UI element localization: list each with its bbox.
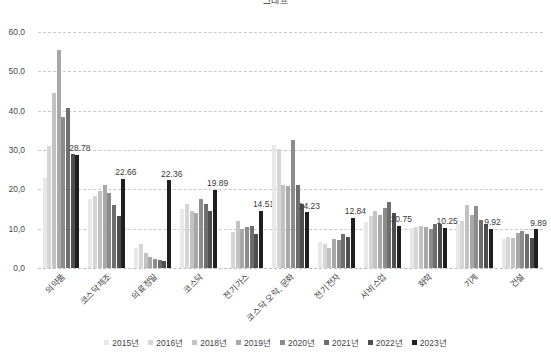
bar <box>180 209 184 268</box>
legend-swatch-icon <box>192 340 197 345</box>
legend-item[interactable]: 2020년 <box>280 336 315 348</box>
bar <box>460 221 464 268</box>
bar-group: 22.36 <box>130 32 176 268</box>
bar: 9.89 <box>534 229 538 268</box>
x-axis-label: 의료정밀 <box>128 270 159 301</box>
x-axis-label: 전기가스 <box>220 270 251 301</box>
bar <box>424 227 428 268</box>
bar <box>66 108 70 268</box>
bar <box>231 232 235 268</box>
bar <box>190 211 194 268</box>
bar <box>327 248 331 268</box>
bar-group: 10.75 <box>359 32 405 268</box>
x-axis-label-cell: 코스닥 오락, 문화 <box>268 268 314 328</box>
x-axis-label-cell: 화학 <box>405 268 451 328</box>
legend-label: 2021년 <box>332 336 359 348</box>
bar <box>414 227 418 268</box>
chart-legend: 2015년2016년2018년2019년2020년2021년2022년2023년 <box>0 336 551 348</box>
bar <box>281 185 285 268</box>
bar <box>277 149 281 268</box>
legend-item[interactable]: 2018년 <box>192 336 227 348</box>
legend-label: 2019년 <box>244 336 271 348</box>
bar <box>148 257 152 268</box>
bar <box>296 185 300 268</box>
y-axis-tick-label: 10,0 <box>0 224 25 234</box>
bar <box>373 211 377 268</box>
bar <box>291 140 295 268</box>
bar <box>332 239 336 269</box>
legend-label: 2022년 <box>376 336 403 348</box>
x-axis-label-cell: 전기전자 <box>313 268 359 328</box>
bar: 28.78 <box>75 155 79 268</box>
bar <box>61 117 65 268</box>
legend-label: 2023년 <box>420 336 447 348</box>
x-axis-label: 기계 <box>461 270 481 290</box>
legend-item[interactable]: 2015년 <box>104 336 139 348</box>
legend-item[interactable]: 2023년 <box>412 336 447 348</box>
x-axis-label-cell: 기계 <box>451 268 497 328</box>
bar-value-label: 9.89 <box>530 219 547 228</box>
bar <box>364 222 368 268</box>
legend-swatch-icon <box>412 340 417 345</box>
x-axis-label: 화학 <box>415 270 435 290</box>
bar <box>52 93 56 268</box>
bar-group: 9.92 <box>451 32 497 268</box>
bar: 10.25 <box>443 228 447 268</box>
x-axis-labels: 의약품코스닥제조의료정밀코스닥전기가스코스닥 오락, 문화전기전자서비스업화학기… <box>38 268 543 328</box>
bar <box>383 208 387 268</box>
bar <box>516 233 520 268</box>
legend-item[interactable]: 2019년 <box>236 336 271 348</box>
bar <box>419 226 423 268</box>
bar <box>245 227 249 268</box>
bar <box>378 215 382 268</box>
bar-group: 9.89 <box>497 32 543 268</box>
y-axis-tick-label: 50,0 <box>0 66 25 76</box>
y-axis-tick-label: 60,0 <box>0 27 25 37</box>
y-axis-tick-label: 30,0 <box>0 145 25 155</box>
bar <box>465 205 469 268</box>
x-axis-label-cell: 건설 <box>497 268 543 328</box>
bar <box>199 199 203 268</box>
y-axis-tick-label: 20,0 <box>0 184 25 194</box>
x-axis-label-cell: 의료정밀 <box>130 268 176 328</box>
bar <box>470 215 474 268</box>
bar <box>194 213 198 268</box>
x-axis-label-cell: 서비스업 <box>359 268 405 328</box>
bar-group: 28.78 <box>38 32 84 268</box>
bar-group: 10.25 <box>405 32 451 268</box>
legend-label: 2020년 <box>288 336 315 348</box>
x-axis-label: 건설 <box>507 270 527 290</box>
x-axis-label: 서비스업 <box>358 270 389 301</box>
x-axis-label-cell: 코스닥제조 <box>84 268 130 328</box>
y-axis-tick-label: 0,0 <box>0 263 25 273</box>
legend-label: 2016년 <box>156 336 183 348</box>
bar <box>272 145 276 268</box>
bar <box>93 196 97 268</box>
bar-group: 19.89 <box>176 32 222 268</box>
legend-swatch-icon <box>368 340 373 345</box>
bar <box>506 237 510 268</box>
x-axis-label: 의약품 <box>42 270 67 295</box>
bar <box>43 178 47 268</box>
bar <box>474 206 478 268</box>
bar-groups: 28.7822.6622.3619.8914.5114.2312.8410.75… <box>38 32 543 268</box>
chart-title: 그래프 <box>0 0 551 4</box>
legend-item[interactable]: 2016년 <box>148 336 183 348</box>
bar <box>107 193 111 268</box>
y-axis-tick-label: 40,0 <box>0 106 25 116</box>
bar <box>236 221 240 268</box>
legend-swatch-icon <box>148 340 153 345</box>
bar-group: 22.66 <box>84 32 130 268</box>
legend-swatch-icon <box>280 340 285 345</box>
bar <box>71 154 75 268</box>
bar-chart: 그래프 0,010,020,030,040,050,060,0 28.7822.… <box>0 0 551 364</box>
legend-item[interactable]: 2021년 <box>324 336 359 348</box>
bar <box>103 185 107 268</box>
legend-swatch-icon <box>104 340 109 345</box>
bar <box>286 186 290 268</box>
bar <box>47 146 51 268</box>
legend-item[interactable]: 2022년 <box>368 336 403 348</box>
bar: 9.92 <box>489 229 493 268</box>
bar <box>511 238 515 268</box>
bar <box>240 229 244 268</box>
